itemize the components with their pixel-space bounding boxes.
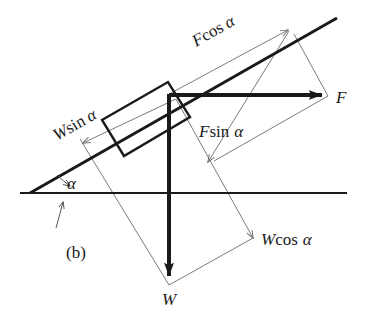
label-f-sin-alpha-var: F xyxy=(198,122,210,141)
label-w-cos-alpha-angle: α xyxy=(303,230,313,249)
w-construction-line-left xyxy=(80,139,169,285)
label-weight-W: W xyxy=(162,290,178,309)
label-f-sin-alpha-fn: sin xyxy=(209,122,229,141)
label-f-sin-alpha: Fsinα xyxy=(198,122,244,141)
w-cos-alpha-arrow xyxy=(176,99,253,238)
label-angle-alpha: α xyxy=(67,174,77,193)
label-f-cos-alpha: Fcosα xyxy=(188,11,239,51)
diagram-canvas: F W α (b) Fcosα Fsinα Wsinα Wcosα xyxy=(0,0,370,325)
label-w-cos-alpha-fn: cos xyxy=(275,230,298,249)
force-decomposition-diagram: F W α (b) Fcosα Fsinα Wsinα Wcosα xyxy=(0,0,370,325)
label-f-sin-alpha-angle: α xyxy=(234,122,244,141)
label-w-cos-alpha: Wcosα xyxy=(261,230,313,249)
ground-leader-arrow xyxy=(56,202,63,228)
f-construction-line-lower xyxy=(214,96,328,161)
svg-text:Fcosα: Fcosα xyxy=(188,11,239,51)
label-force-F: F xyxy=(335,88,347,107)
f-construction-line-upper xyxy=(294,34,328,96)
label-panel-b: (b) xyxy=(66,243,86,262)
w-construction-line-right xyxy=(169,238,253,285)
